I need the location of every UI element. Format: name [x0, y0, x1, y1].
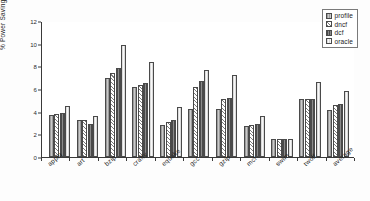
bar: [305, 99, 310, 157]
bar: [310, 99, 315, 157]
bar: [88, 124, 93, 157]
bar: [193, 87, 198, 157]
bar-group: [132, 22, 154, 157]
legend-item[interactable]: dncf: [326, 21, 353, 28]
bar-group: [271, 22, 293, 157]
legend-swatch-icon: [326, 30, 332, 36]
y-axis-tick-label: 4: [34, 110, 37, 116]
bar: [216, 109, 221, 157]
legend: profiledncfdcforacle: [322, 9, 358, 48]
bar: [65, 106, 70, 157]
bar: [255, 124, 260, 157]
bar: [227, 98, 232, 157]
y-axis-tick-label: 8: [34, 64, 37, 70]
bar: [110, 73, 115, 157]
bar: [232, 75, 237, 157]
y-axis-tick-label: 12: [30, 19, 37, 25]
bar-group: [160, 22, 182, 157]
bar: [121, 45, 126, 157]
bar-group: [188, 22, 210, 157]
legend-label: dncf: [335, 21, 348, 28]
bar: [82, 120, 87, 157]
bar-group: [299, 22, 321, 157]
bar: [143, 83, 148, 157]
y-axis-tick-label: 0: [34, 155, 37, 161]
x-axis-tick-mark: [354, 158, 355, 161]
bar: [60, 113, 65, 157]
bar-group: [105, 22, 127, 157]
bar-group: [244, 22, 266, 157]
bar: [316, 82, 321, 157]
bar: [138, 85, 143, 157]
legend-swatch-icon: [326, 38, 332, 44]
bar: [299, 99, 304, 157]
bar: [188, 109, 193, 157]
y-axis-tick-label: 10: [30, 42, 37, 48]
legend-item[interactable]: oracle: [326, 38, 353, 45]
bar-group: [77, 22, 99, 157]
bar: [338, 104, 343, 157]
bar: [93, 116, 98, 157]
y-axis-title: % Power Savings: [0, 0, 6, 50]
legend-label: profile: [335, 12, 353, 19]
bar: [116, 68, 121, 157]
bar: [271, 139, 276, 157]
y-axis-tick-label: 6: [34, 87, 37, 93]
legend-item[interactable]: dcf: [326, 29, 353, 36]
x-axis-labels: appluartbzipcraftyequakegccgzipmcfswimtw…: [41, 160, 354, 201]
power-savings-bar-chart: 024681012 % Power Savings appluartbzipcr…: [0, 0, 370, 201]
legend-label: dcf: [335, 29, 344, 36]
bar: [249, 125, 254, 157]
bar: [333, 105, 338, 157]
bar: [204, 70, 209, 157]
bar: [132, 87, 137, 157]
bar: [221, 99, 226, 157]
bar: [260, 116, 265, 157]
bar: [149, 62, 154, 157]
bar: [49, 115, 54, 158]
bar: [327, 110, 332, 157]
legend-item[interactable]: profile: [326, 12, 353, 19]
bar: [244, 126, 249, 157]
y-axis: 024681012: [0, 0, 41, 158]
legend-swatch-icon: [326, 21, 332, 27]
bar: [77, 120, 82, 157]
legend-swatch-icon: [326, 13, 332, 19]
y-axis-tick-label: 2: [34, 132, 37, 138]
bar: [160, 125, 165, 157]
bar-group: [49, 22, 71, 157]
legend-label: oracle: [335, 38, 353, 45]
bar-group: [216, 22, 238, 157]
bar: [199, 81, 204, 157]
bars-layer: [42, 22, 354, 157]
bar: [105, 78, 110, 157]
plot-area: [41, 22, 354, 158]
